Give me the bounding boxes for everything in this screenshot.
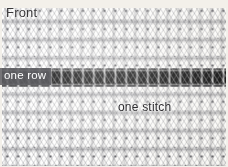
label-one-row: one row xyxy=(0,68,51,85)
contrast-row-bottom-bleed xyxy=(2,85,226,87)
knitted-fabric-image xyxy=(2,8,226,166)
stitch-notch-marks-alt xyxy=(2,8,226,166)
knitting-figure: Front one row one stitch xyxy=(0,0,228,167)
label-one-stitch: one stitch xyxy=(118,101,171,113)
label-front: Front xyxy=(6,6,37,19)
